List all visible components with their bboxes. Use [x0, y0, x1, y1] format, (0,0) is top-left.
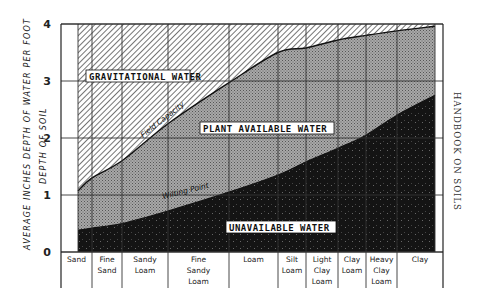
category-label: Sandy — [187, 266, 211, 275]
gravitational-water-label: GRAVITATIONAL WATER — [86, 70, 202, 82]
plant-available-water-label: PLANT AVAILABLE WATER — [200, 122, 334, 134]
side-caption: HANDBOOK ON SOILS — [452, 92, 462, 211]
category-label: Sand — [98, 266, 117, 275]
category-label: Clay — [412, 255, 429, 264]
category-label: Sandy — [133, 255, 157, 264]
category-label: Loam — [371, 277, 392, 286]
category-label: Loam — [312, 277, 333, 286]
soil-water-chart: GRAVITATIONAL WATER PLANT AVAILABLE WATE… — [0, 0, 483, 305]
category-label: Sand — [67, 255, 86, 264]
category-label: Loam — [243, 255, 264, 264]
y-tick-label: 4 — [43, 18, 51, 31]
y-axis-label-line1: AVERAGE INCHES DEPTH OF WATER PER FOOT — [23, 18, 32, 251]
x-axis-categories: SandFineSandSandyLoamFineSandyLoamLoamSi… — [67, 255, 429, 286]
category-label: Heavy — [370, 255, 394, 264]
category-label: Clay — [373, 266, 390, 275]
y-axis-label-line2: DEPTH OF SOIL — [39, 107, 48, 184]
category-label: Loam — [282, 266, 303, 275]
category-label: Fine — [99, 255, 115, 264]
category-label: Loam — [188, 277, 209, 286]
category-label: Clay — [314, 266, 331, 275]
unavailable-water-label: UNAVAILABLE WATER — [226, 221, 336, 233]
category-label: Clay — [344, 255, 361, 264]
svg-text:GRAVITATIONAL WATER: GRAVITATIONAL WATER — [89, 72, 202, 82]
category-label: Silt — [286, 255, 298, 264]
y-tick-label: 3 — [43, 75, 51, 88]
category-label: Loam — [342, 266, 363, 275]
category-label: Fine — [191, 255, 207, 264]
category-label: Loam — [135, 266, 156, 275]
y-tick-label: 0 — [43, 246, 51, 259]
svg-text:PLANT AVAILABLE WATER: PLANT AVAILABLE WATER — [203, 124, 327, 134]
svg-text:UNAVAILABLE WATER: UNAVAILABLE WATER — [229, 223, 330, 233]
y-tick-label: 1 — [43, 189, 51, 202]
category-label: Light — [313, 255, 332, 264]
